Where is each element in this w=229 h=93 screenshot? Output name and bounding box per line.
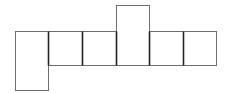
prism-net-diagram [0,0,229,93]
face-square-2 [83,32,117,66]
face-square-3 [150,32,184,66]
fold-lines [49,32,184,66]
face-square-1 [49,32,83,66]
face-top-tall [117,6,150,66]
face-left-tall [16,32,49,91]
face-square-4 [184,32,217,66]
